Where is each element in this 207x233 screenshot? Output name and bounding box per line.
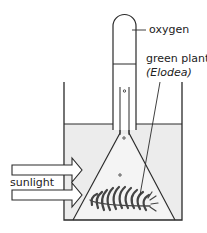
test-tube	[113, 14, 136, 130]
sunlight-label: sunlight	[10, 177, 54, 188]
elodea-label: (Elodea)	[146, 67, 192, 78]
oxygen-label: oxygen	[149, 24, 189, 35]
green-plant-label: green plant	[146, 53, 207, 64]
